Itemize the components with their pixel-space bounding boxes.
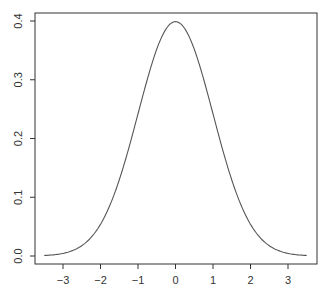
y-tick-label: 0.4 [12, 13, 24, 28]
x-tick-label: 3 [285, 274, 291, 286]
y-tick-label: 0.0 [12, 248, 24, 263]
x-tick-label: −1 [132, 274, 145, 286]
plot-frame [35, 13, 317, 264]
y-tick-label: 0.2 [12, 131, 24, 146]
density-curve [44, 22, 307, 256]
x-tick-label: −3 [57, 274, 70, 286]
y-tick-label: 0.1 [12, 190, 24, 205]
density-chart: −3−2−10123 0.00.10.20.30.4 [0, 0, 332, 298]
x-tick-label: −2 [94, 274, 107, 286]
y-axis: 0.00.10.20.30.4 [12, 13, 35, 263]
y-tick-label: 0.3 [12, 72, 24, 87]
x-tick-label: 1 [210, 274, 216, 286]
x-tick-label: 0 [172, 274, 178, 286]
x-tick-label: 2 [247, 274, 253, 286]
x-axis: −3−2−10123 [57, 264, 291, 286]
